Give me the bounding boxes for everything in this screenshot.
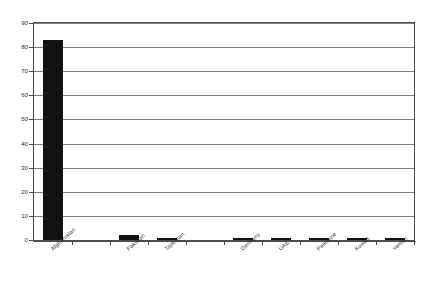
y-axis-tick-label: 10 [4,213,28,219]
y-axis-tick-mark [29,47,33,48]
y-axis-tick-mark [29,168,33,169]
y-axis-tick-mark [29,23,33,24]
y-axis-tick-mark [29,144,33,145]
x-axis-tick-mark [110,241,111,245]
y-axis-tick-label: 90 [4,20,28,26]
y-axis-tick-label: 60 [4,92,28,98]
bar-chart: 0102030405060708090 AfghanistanPakistanT… [0,0,432,289]
x-axis-tick-mark [376,241,377,245]
y-axis-tick-mark [29,192,33,193]
x-axis-tick-mark [414,241,415,245]
bar [271,238,291,240]
x-axis-tick-mark [148,241,149,245]
y-axis-tick-label: 50 [4,116,28,122]
y-axis-tick-mark [29,119,33,120]
y-axis-tick-label: 80 [4,44,28,50]
y-axis-tick-mark [29,95,33,96]
y-axis-tick-label: 0 [4,237,28,243]
x-axis-tick-mark [186,241,187,245]
y-axis-tick-label: 40 [4,141,28,147]
y-axis-tick-mark [29,216,33,217]
bar [43,40,63,240]
y-axis-tick-mark [29,71,33,72]
y-axis-tick-mark [29,240,33,241]
bars-layer [34,23,414,240]
x-axis-tick-mark [338,241,339,245]
x-axis-tick-mark [224,241,225,245]
y-axis-tick-label: 30 [4,165,28,171]
y-axis-tick-label: 70 [4,68,28,74]
y-axis-tick-label: 20 [4,189,28,195]
x-axis-tick-mark [262,241,263,245]
x-axis-tick-mark [72,241,73,245]
x-axis-tick-mark [300,241,301,245]
